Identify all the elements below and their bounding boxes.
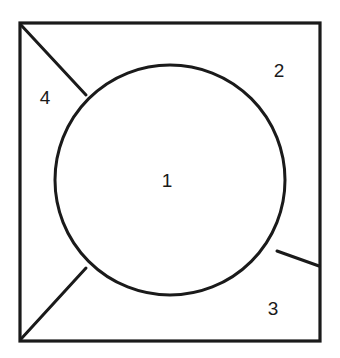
line-circle-to-right-edge [277, 251, 319, 266]
region-label-2: 2 [274, 61, 285, 80]
region-label-3: 3 [268, 299, 279, 318]
line-bottom-left-corner-to-circle [21, 268, 86, 339]
region-label-4: 4 [40, 88, 51, 107]
line-top-left-corner-to-circle [21, 25, 86, 95]
geometric-diagram: 1 2 3 4 [0, 0, 340, 358]
region-label-1: 1 [162, 171, 173, 190]
